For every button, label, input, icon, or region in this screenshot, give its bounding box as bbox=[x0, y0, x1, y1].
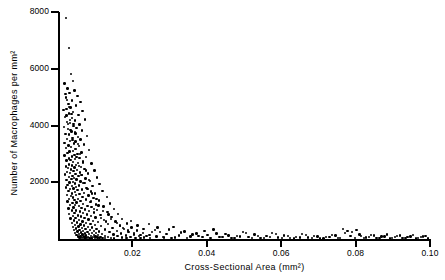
data-point bbox=[104, 228, 106, 230]
data-point bbox=[78, 165, 80, 167]
data-point bbox=[71, 137, 73, 139]
data-point bbox=[82, 160, 84, 162]
data-point bbox=[63, 142, 65, 144]
data-point bbox=[64, 133, 66, 135]
data-point bbox=[138, 235, 140, 237]
data-point bbox=[116, 235, 118, 237]
data-point bbox=[301, 233, 303, 235]
data-point bbox=[245, 232, 247, 234]
x-tick-label: 0.08 bbox=[347, 249, 364, 258]
data-point bbox=[89, 180, 91, 182]
data-point bbox=[271, 232, 273, 234]
data-point bbox=[394, 236, 396, 238]
data-point bbox=[69, 159, 71, 161]
data-point bbox=[368, 236, 370, 238]
data-point bbox=[111, 227, 113, 229]
data-point bbox=[79, 180, 81, 182]
data-point bbox=[82, 212, 84, 214]
data-point bbox=[121, 218, 123, 220]
data-point bbox=[253, 233, 255, 235]
data-point bbox=[93, 208, 95, 210]
data-point bbox=[71, 202, 73, 204]
x-tick-mark bbox=[131, 241, 133, 247]
data-point bbox=[66, 138, 68, 140]
data-point bbox=[90, 200, 92, 202]
data-point bbox=[396, 235, 398, 237]
data-point bbox=[78, 123, 80, 125]
data-point bbox=[69, 172, 71, 174]
data-point bbox=[77, 214, 79, 216]
data-point bbox=[74, 224, 76, 226]
data-point bbox=[73, 89, 75, 91]
data-point bbox=[78, 145, 80, 147]
data-point bbox=[265, 235, 267, 237]
data-point bbox=[108, 231, 110, 233]
data-point bbox=[127, 229, 129, 231]
data-point bbox=[65, 17, 67, 19]
data-point bbox=[422, 235, 424, 237]
data-point bbox=[77, 225, 79, 227]
data-point bbox=[334, 234, 336, 236]
data-point bbox=[87, 236, 89, 238]
data-point bbox=[72, 170, 74, 172]
data-point bbox=[76, 95, 78, 97]
data-point bbox=[96, 209, 98, 211]
data-point bbox=[66, 99, 68, 101]
data-point bbox=[63, 154, 65, 156]
data-point bbox=[81, 174, 83, 176]
data-point bbox=[68, 92, 70, 94]
data-point bbox=[77, 136, 79, 138]
data-point bbox=[80, 231, 82, 233]
data-point bbox=[73, 166, 75, 168]
data-point bbox=[74, 232, 76, 234]
data-point bbox=[70, 130, 72, 132]
data-point bbox=[79, 153, 81, 155]
data-point bbox=[78, 184, 80, 186]
data-point bbox=[69, 122, 71, 124]
data-point bbox=[75, 201, 77, 203]
data-point bbox=[165, 233, 167, 235]
data-point bbox=[155, 235, 157, 237]
data-point bbox=[97, 204, 99, 206]
data-point bbox=[90, 162, 92, 164]
data-point bbox=[94, 235, 96, 237]
data-point bbox=[112, 233, 114, 235]
data-point bbox=[126, 222, 128, 224]
data-point bbox=[98, 183, 100, 185]
data-point bbox=[81, 233, 83, 235]
data-point bbox=[239, 235, 241, 237]
data-point bbox=[74, 140, 76, 142]
data-point bbox=[68, 133, 70, 135]
data-point bbox=[85, 187, 87, 189]
data-point bbox=[133, 232, 135, 234]
data-point bbox=[236, 235, 238, 237]
data-point bbox=[63, 126, 65, 128]
data-point bbox=[82, 230, 84, 232]
data-point bbox=[119, 225, 121, 227]
x-axis-title: Cross-Sectional Area (mm²) bbox=[58, 262, 431, 272]
data-point bbox=[74, 191, 76, 193]
data-point bbox=[151, 231, 153, 233]
data-point bbox=[84, 177, 86, 179]
data-point bbox=[242, 231, 244, 233]
data-point bbox=[74, 204, 76, 206]
data-point bbox=[331, 234, 333, 236]
data-point bbox=[386, 233, 388, 235]
data-point bbox=[71, 192, 73, 194]
data-point bbox=[224, 233, 226, 235]
data-point bbox=[116, 222, 118, 224]
data-point bbox=[70, 168, 72, 170]
data-point bbox=[109, 202, 111, 204]
data-point bbox=[71, 185, 73, 187]
data-point bbox=[83, 168, 85, 170]
data-point bbox=[72, 123, 74, 125]
data-point bbox=[117, 213, 119, 215]
data-point bbox=[69, 140, 71, 142]
data-point bbox=[227, 234, 229, 236]
data-point bbox=[66, 200, 68, 202]
y-tick-label: 6000 bbox=[30, 64, 49, 73]
data-point bbox=[65, 186, 67, 188]
x-tick-label: 0.02 bbox=[124, 249, 141, 258]
data-point bbox=[74, 182, 76, 184]
data-point bbox=[75, 156, 77, 158]
